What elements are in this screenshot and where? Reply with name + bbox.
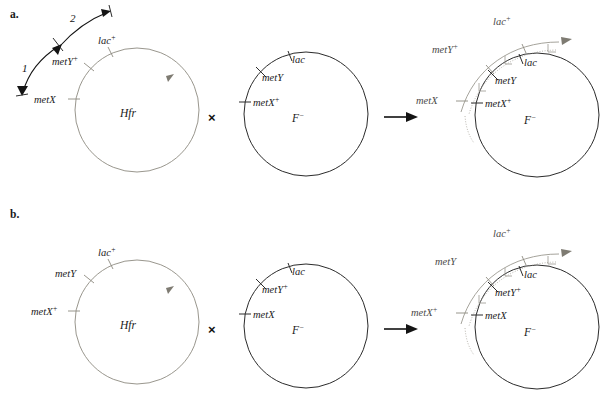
hfr-cell-label: Hfr: [119, 319, 137, 332]
tick-lac-plus: [108, 47, 113, 57]
result-cell-label: F−: [523, 113, 536, 126]
panel-a-result: F− lac+ metY+ metX lac metY metX+: [416, 14, 599, 177]
result-label-lac: lac: [524, 269, 537, 280]
panel-b-result-arrow: [384, 324, 418, 334]
conjugation-figure: a. Hfr lac+ metY+ metX: [0, 0, 612, 403]
result-chromosome-circle: [475, 53, 599, 177]
result-label-metY-plus: metY+: [495, 285, 521, 298]
hfr-chromosome-circle: [75, 48, 199, 172]
panel-a: a. Hfr lac+ metY+ metX: [10, 5, 599, 177]
panel-a-result-arrow: [384, 112, 418, 122]
f-minus-chromosome-circle: [244, 52, 368, 176]
panel-b-recipient-f: F− lac metY+ metX: [239, 263, 368, 388]
panel-a-transfer-arrows: 1 2: [16, 5, 112, 96]
label-metX-plus: metX+: [31, 304, 58, 317]
label-lac: lac: [292, 54, 305, 65]
fragment-tick-lac-plus: [522, 256, 526, 265]
label-lac: lac: [292, 266, 305, 277]
result-label-metX: metX: [485, 310, 507, 321]
f-minus-chromosome-circle: [244, 264, 368, 388]
fragment-label-metX-plus: metX+: [411, 305, 438, 318]
fragment-label-lac-plus: lac+: [493, 226, 511, 239]
tick-lac-plus: [108, 259, 113, 269]
label-metY-plus: metY+: [262, 282, 288, 295]
transfer-origin-arrowhead: [166, 74, 174, 82]
fragment-arc-arrowhead: [561, 37, 572, 45]
crossover-bridge-right: [548, 256, 556, 264]
label-lac-plus: lac+: [98, 245, 116, 258]
transfer-arrow-2-head: [101, 9, 111, 17]
crossover-bridge-right: [548, 44, 556, 52]
panel-b-letter: b.: [10, 208, 19, 220]
label-metX: metX: [34, 94, 56, 105]
result-cell-label: F−: [523, 325, 536, 338]
result-label-lac: lac: [524, 57, 537, 68]
fragment-label-metY-plus: metY+: [432, 42, 458, 55]
transfer-curve-1: [23, 46, 59, 92]
label-metY-plus: metY+: [52, 54, 78, 67]
label-metY: metY: [55, 268, 77, 279]
result-label-metX-plus: metX+: [485, 96, 512, 109]
hfr-cell-label: Hfr: [119, 107, 137, 120]
panel-a-recipient-f: F− lac metY metX+: [239, 51, 368, 176]
f-minus-cell-label: F−: [291, 111, 304, 124]
result-label-metY: metY: [495, 75, 517, 86]
fragment-tail-dotted: [465, 116, 474, 143]
f-minus-cell-label: F−: [291, 323, 304, 336]
label-metX: metX: [253, 309, 275, 320]
label-lac-plus: lac+: [98, 33, 116, 46]
label-metY: metY: [262, 72, 284, 83]
result-chromosome-circle: [475, 265, 599, 389]
fragment-tail-dotted: [465, 328, 474, 355]
transfer-step-1-label: 1: [22, 62, 28, 74]
fragment-arc-arrowhead: [561, 249, 572, 257]
panel-b: b. Hfr lac+ metY metX+ ×: [10, 208, 599, 389]
transfer-step-2-label: 2: [70, 12, 76, 24]
panel-a-donor-hfr: Hfr lac+ metY+ metX: [34, 33, 199, 172]
transfer-origin-arrowhead: [166, 286, 174, 294]
result-arrow-head: [406, 324, 418, 334]
fragment-tick-lac-plus: [522, 44, 526, 53]
label-metX-plus: metX+: [253, 95, 280, 108]
hfr-chromosome-circle: [75, 260, 199, 384]
fragment-label-metY: metY: [435, 256, 457, 267]
panel-a-letter: a.: [10, 8, 19, 20]
panel-b-result: F− lac+ metY metX+ lac metY+ metX: [411, 226, 599, 389]
result-arrow-head: [406, 112, 418, 122]
panel-b-donor-hfr: Hfr lac+ metY metX+: [31, 245, 199, 384]
panel-b-cross-symbol: ×: [208, 322, 216, 337]
fragment-label-lac-plus: lac+: [493, 14, 511, 27]
fragment-label-metX: metX: [416, 95, 438, 106]
panel-a-cross-symbol: ×: [208, 110, 216, 125]
